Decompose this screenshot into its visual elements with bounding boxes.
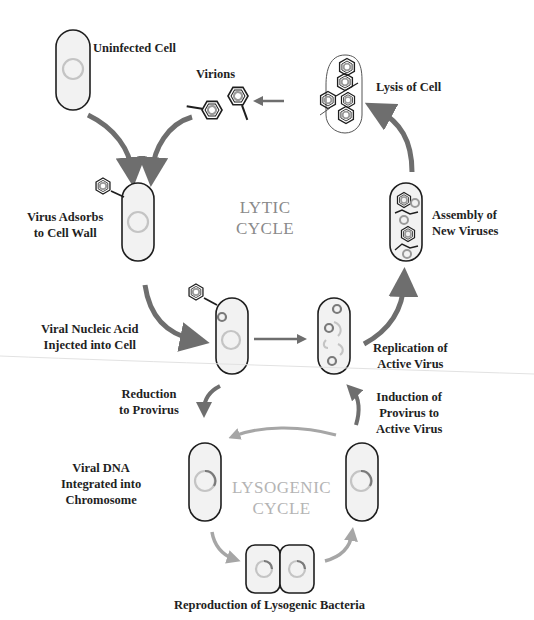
- label-line: Induction of: [376, 389, 442, 405]
- label-line: to Provirus: [119, 402, 179, 418]
- adsorbed-cell: [96, 178, 154, 261]
- virion-icon: [222, 83, 260, 120]
- label-integrated: Viral DNA Integrated into Chromosome: [61, 460, 141, 508]
- label-line: Active Virus: [376, 421, 442, 437]
- label-line: CYCLE: [232, 498, 331, 519]
- uninfected-cell: [56, 30, 90, 110]
- lysing-cell: [320, 55, 362, 133]
- label-line: to Cell Wall: [27, 225, 103, 241]
- arrow-lysogenic-top: [234, 428, 336, 436]
- label-adsorbs: Virus Adsorbs to Cell Wall: [27, 209, 103, 241]
- arrow-adsorb-to-inject: [145, 285, 195, 340]
- label-line: LYSOGENIC: [232, 477, 331, 498]
- label-lysis: Lysis of Cell: [376, 79, 441, 95]
- label-line: New Viruses: [432, 223, 498, 239]
- label-line: Virus Adsorbs: [27, 209, 103, 225]
- label-line: Active Virus: [373, 356, 448, 372]
- label-reproduction: Reproduction of Lysogenic Bacteria: [174, 597, 365, 613]
- virion-icon: [187, 92, 225, 129]
- label-uninfected-cell: Uninfected Cell: [93, 40, 176, 56]
- label-lysogenic-cycle: LYSOGENIC CYCLE: [232, 477, 331, 519]
- label-induction: Induction of Provirus to Active Virus: [376, 389, 442, 437]
- label-injected: Viral Nucleic Acid Injected into Cell: [41, 321, 138, 353]
- label-line: CYCLE: [236, 218, 294, 239]
- label-line: Assembly of: [432, 207, 498, 223]
- arrow-reduction: [204, 386, 220, 410]
- arrow-induction: [352, 390, 359, 425]
- lysogenic-cell: [346, 443, 378, 521]
- label-line: Provirus to: [376, 405, 442, 421]
- phage-cycle-diagram: [0, 0, 534, 620]
- label-line: Integrated into: [61, 476, 141, 492]
- label-line: Viral Nucleic Acid: [41, 321, 138, 337]
- label-replication: Replication of Active Virus: [373, 340, 448, 372]
- label-line: LYTIC: [236, 197, 294, 218]
- label-virions: Virions: [196, 66, 235, 82]
- arrow-virions-to-adsorb: [152, 117, 192, 172]
- label-line: Chromosome: [61, 492, 141, 508]
- label-lytic-cycle: LYTIC CYCLE: [236, 197, 294, 239]
- arrow-lysogenic-right: [325, 534, 352, 561]
- label-assembly: Assembly of New Viruses: [432, 207, 498, 239]
- arrow-replicate-to-assembly: [364, 282, 404, 344]
- label-line: Viral DNA: [61, 460, 141, 476]
- divider-line: [0, 356, 534, 374]
- injected-cell: [189, 284, 248, 374]
- dividing-bacteria: [246, 545, 314, 593]
- label-line: Replication of: [373, 340, 448, 356]
- replicating-cell: [318, 298, 350, 374]
- arrow-lysogenic-left: [212, 532, 234, 559]
- assembly-cell: [390, 183, 422, 261]
- arrow-uninfected-to-adsorb: [88, 115, 132, 172]
- integrated-cell: [189, 443, 221, 521]
- arrow-assembly-to-lysis: [378, 110, 412, 172]
- label-line: Reduction: [119, 386, 179, 402]
- label-line: Injected into Cell: [41, 337, 138, 353]
- label-reduction: Reduction to Provirus: [119, 386, 179, 418]
